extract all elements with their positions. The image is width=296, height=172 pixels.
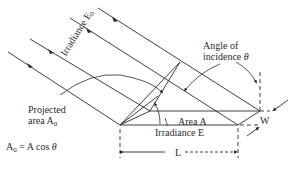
angle-of-incidence-label: Angle of incidence θ [203,40,249,62]
projected-area [120,62,180,125]
length-l-label: L [175,147,181,158]
formula-label: A0 = A cos θ [6,141,57,156]
projected-area-label: Projected area A0 [28,104,66,130]
leaders [60,62,256,126]
width-w-label: W [260,115,269,126]
ray-arrow-icon [112,17,118,22]
ray-2 [30,39,150,111]
dimension-lines [120,72,270,158]
area-a-label: Area A [178,116,207,127]
irradiance-e-label: Irradiance E [155,127,204,138]
